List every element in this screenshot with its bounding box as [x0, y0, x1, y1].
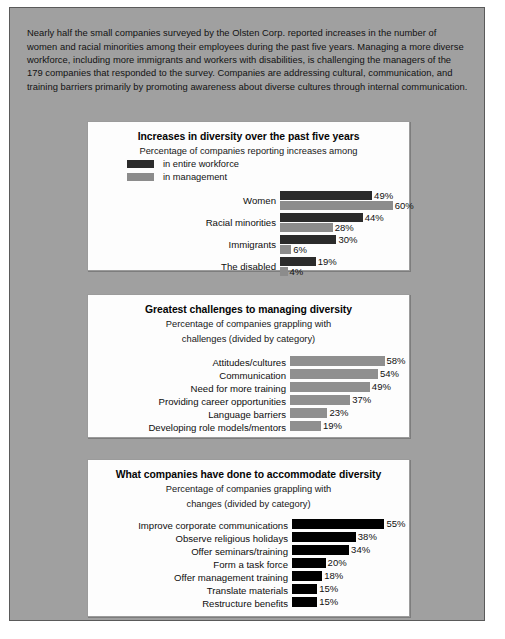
bar-group-label: Language barriers [88, 409, 290, 420]
bar-group: Restructure benefits15% [88, 597, 409, 610]
bar-value-label: 58% [387, 356, 406, 366]
bar [290, 421, 321, 431]
bar-line: 55% [292, 519, 409, 529]
chart-card-accommodations: What companies have done to accommodate … [87, 459, 410, 617]
bar-value-label: 30% [338, 235, 357, 245]
bar [280, 191, 372, 200]
bar-group: Observe religious holidays38% [88, 532, 409, 545]
bar [292, 532, 356, 542]
bar-group: Developing role models/mentors19% [88, 421, 409, 434]
chart-legend: in entire workforce in management [88, 158, 409, 183]
bar-group-bars: 38% [292, 532, 409, 545]
infographic-page: Nearly half the small companies surveyed… [0, 0, 505, 639]
bar [290, 369, 378, 379]
bar-value-label: 55% [386, 519, 405, 529]
bar-group-label: Translate materials [88, 585, 292, 596]
bar-group: Racial minorities44%28% [88, 213, 409, 232]
bar-group-bars: 18% [292, 571, 409, 584]
bar-value-label: 19% [318, 257, 337, 267]
bar-line: 49% [280, 191, 414, 200]
bar-line: 20% [292, 558, 409, 568]
bar-line: 23% [290, 408, 409, 418]
bar-value-label: 54% [380, 369, 399, 379]
bar [280, 245, 291, 254]
legend-item: in management [127, 171, 409, 183]
bar-group-bars: 15% [292, 597, 409, 610]
bar-group: Translate materials15% [88, 584, 409, 597]
bar-value-label: 49% [374, 191, 393, 201]
bar-value-label: 19% [323, 421, 342, 431]
bar-group: Women49%60% [88, 191, 409, 210]
bar-group: Language barriers23% [88, 408, 409, 421]
bar-group-label: Immigrants [88, 239, 280, 250]
bar-group-label: Improve corporate communications [88, 520, 292, 531]
bar-group: Offer seminars/training34% [88, 545, 409, 558]
intro-paragraph: Nearly half the small companies surveyed… [27, 26, 469, 92]
bar [280, 267, 288, 276]
bar-group: Offer management training18% [88, 571, 409, 584]
bar-value-label: 6% [293, 245, 307, 255]
chart-subtitle-line-1: Percentage of companies grappling with [88, 318, 409, 330]
bar [290, 382, 370, 392]
bar-line: 30% [280, 235, 409, 244]
bar-line: 6% [280, 245, 409, 254]
bar-value-label: 20% [328, 558, 347, 568]
bar-line: 38% [292, 532, 409, 542]
bar-group: Need for more training49% [88, 382, 409, 395]
chart-subtitle-line-2: changes (divided by category) [88, 498, 409, 510]
bar-group: Improve corporate communications55% [88, 519, 409, 532]
bar [280, 223, 333, 232]
bar-group-bars: 49% [290, 382, 409, 395]
bar-group-label: Observe religious holidays [88, 533, 292, 544]
bar-line: 60% [280, 201, 414, 210]
bar-value-label: 38% [358, 532, 377, 542]
legend-item: in entire workforce [127, 158, 409, 170]
chart-subtitle-line-1: Percentage of companies reporting increa… [88, 145, 409, 157]
bar-group-bars: 34% [292, 545, 409, 558]
legend-label-in-management: in management [163, 172, 227, 182]
bar-group: Form a task force20% [88, 558, 409, 571]
bar-group-label: Offer management training [88, 572, 292, 583]
bar [292, 558, 326, 568]
bar [280, 213, 363, 222]
legend-swatch-in-management [127, 173, 154, 181]
bar-line: 44% [280, 213, 409, 222]
bar-value-label: 15% [319, 597, 338, 607]
bar-group-bars: 55% [292, 519, 409, 532]
bar-line: 37% [290, 395, 409, 405]
bar-group-bars: 44%28% [280, 213, 409, 232]
chart-bars-area: Women49%60%Racial minorities44%28%Immigr… [88, 191, 409, 276]
bar-value-label: 28% [335, 223, 354, 233]
bar-group-bars: 37% [290, 395, 409, 408]
bar-value-label: 4% [290, 267, 304, 277]
bar-line: 34% [292, 545, 409, 555]
bar-value-label: 15% [319, 584, 338, 594]
bar-line: 15% [292, 584, 409, 594]
bar-group: Providing career opportunities37% [88, 395, 409, 408]
chart-subtitle-line-2: challenges (divided by category) [88, 333, 409, 345]
legend-swatch-entire-workforce [127, 160, 154, 168]
bar-group-bars: 54% [290, 369, 409, 382]
chart-card-diversity-increases: Increases in diversity over the past fiv… [87, 121, 410, 271]
bar-line: 19% [290, 421, 409, 431]
bar-line: 28% [280, 223, 409, 232]
bar [292, 545, 349, 555]
chart-card-greatest-challenges: Greatest challenges to managing diversit… [87, 294, 410, 438]
bar-line: 18% [292, 571, 409, 581]
bar-line: 4% [280, 267, 409, 276]
bar-group-label: Providing career opportunities [88, 396, 290, 407]
bar [292, 597, 317, 607]
bar-value-label: 23% [329, 408, 348, 418]
bar-group-label: Attitudes/cultures [88, 357, 290, 368]
bar-group-label: Women [88, 195, 280, 206]
bar-group-label: Communication [88, 370, 290, 381]
bar-group-bars: 49%60% [280, 191, 414, 210]
bar-line: 15% [292, 597, 409, 607]
bar [290, 395, 350, 405]
bar [280, 235, 336, 244]
bar [292, 519, 384, 529]
bar [280, 257, 316, 266]
chart-title: What companies have done to accommodate … [88, 469, 409, 480]
bar-line: 49% [290, 382, 409, 392]
bar-group-label: Form a task force [88, 559, 292, 570]
